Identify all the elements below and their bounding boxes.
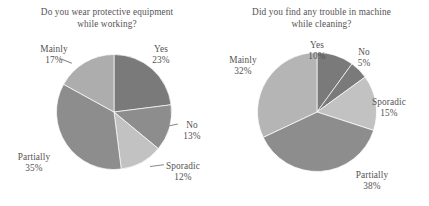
chart1-label-sporadic: Sporadic 12% (157, 161, 209, 183)
chart2-title: Did you find any trouble in machine whil… (214, 6, 429, 31)
pie-chart-figure: Do you wear protective equipment while w… (0, 0, 429, 206)
chart1-label-no-pct: 13% (176, 131, 208, 142)
chart1-label-no: No 13% (176, 120, 208, 142)
chart1-title-line1: Do you wear protective equipment (41, 7, 173, 17)
chart1-label-yes-name: Yes (154, 44, 168, 54)
chart2-label-yes-name: Yes (310, 40, 324, 50)
chart2-label-no-name: No (358, 47, 370, 57)
chart1-label-partially-name: Partially (18, 152, 50, 162)
chart2-label-no: No 5% (349, 47, 379, 69)
chart1-title: Do you wear protective equipment while w… (0, 6, 214, 31)
chart1-label-mainly-name: Mainly (40, 44, 67, 54)
chart2-title-line1: Did you find any trouble in machine (252, 7, 391, 17)
chart2-label-mainly-name: Mainly (229, 55, 256, 65)
chart2-pie-svg (257, 52, 377, 172)
chart1-label-mainly: Mainly 17% (30, 44, 78, 66)
chart2-label-sporadic-pct: 15% (362, 108, 416, 119)
chart1-label-sporadic-name: Sporadic (166, 161, 200, 171)
chart1-label-partially-pct: 35% (8, 163, 60, 174)
chart2-label-partially: Partially 38% (346, 170, 398, 192)
chart2-label-mainly: Mainly 32% (219, 55, 267, 77)
chart2-label-no-pct: 5% (349, 58, 379, 69)
chart1-label-partially: Partially 35% (8, 152, 60, 174)
chart1-title-line2: while working? (77, 19, 137, 29)
chart1-label-yes: Yes 23% (141, 44, 181, 66)
chart1-pie-svg (56, 54, 172, 170)
chart-panel-protective-equipment: Do you wear protective equipment while w… (0, 0, 214, 206)
chart2-label-yes-pct: 10% (297, 51, 337, 62)
chart2-label-sporadic: Sporadic 15% (362, 97, 416, 119)
chart1-label-no-name: No (186, 120, 198, 130)
chart1-label-yes-pct: 23% (141, 55, 181, 66)
chart2-pie (257, 52, 377, 172)
chart1-label-sporadic-pct: 12% (157, 172, 209, 183)
chart2-label-sporadic-name: Sporadic (372, 97, 406, 107)
chart-panel-machine-trouble: Did you find any trouble in machine whil… (214, 0, 429, 206)
chart2-label-partially-pct: 38% (346, 181, 398, 192)
chart1-label-mainly-pct: 17% (30, 55, 78, 66)
chart2-label-mainly-pct: 32% (219, 66, 267, 77)
chart1-pie (56, 54, 172, 170)
chart2-label-partially-name: Partially (356, 170, 388, 180)
chart2-label-yes: Yes 10% (297, 40, 337, 62)
chart2-title-line2: while cleaning? (291, 19, 351, 29)
